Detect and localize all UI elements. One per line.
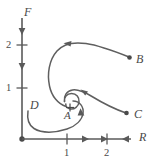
x-tick-label-1: 1 — [64, 148, 69, 159]
phase-plane-figure: F R 2 1 1 2 A B C D — [0, 0, 156, 167]
point-c-label: C — [134, 108, 142, 120]
y-axis-direction-arrow-down-1 — [19, 63, 26, 70]
trajectory-b — [48, 41, 131, 107]
point-d-label: D — [30, 99, 39, 111]
x-tick-label-2: 2 — [104, 148, 109, 159]
point-b-label: B — [136, 53, 143, 65]
point-b-dot — [127, 55, 132, 60]
y-axis — [17, 18, 28, 142]
y-tick-label-1: 1 — [6, 83, 11, 94]
x-axis — [22, 134, 131, 145]
x-axis-direction-arrow-left-1 — [122, 136, 129, 143]
y-axis-label: F — [24, 6, 31, 18]
y-tick-label-2: 2 — [6, 40, 11, 51]
x-axis-label: R — [139, 131, 146, 143]
point-a-label: A — [64, 110, 71, 121]
trajectory-c-flow-arrow — [81, 89, 89, 95]
trajectory-b-path — [48, 43, 129, 107]
plot-canvas — [0, 0, 156, 167]
y-axis-direction-arrow-down-2 — [19, 28, 26, 35]
x-axis-direction-arrow-right-1 — [82, 136, 89, 143]
point-c-dot — [124, 111, 129, 116]
